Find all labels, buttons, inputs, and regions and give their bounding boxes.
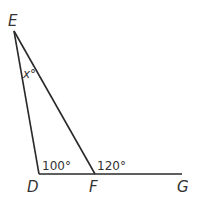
point-label-F: F [89,178,98,196]
angle-label-E: x° [22,67,36,81]
angle-label-F-exterior: 120° [97,159,126,173]
point-label-E: E [8,12,18,30]
angle-label-D: 100° [42,159,71,173]
point-label-D: D [27,178,39,196]
point-label-G: G [177,178,189,196]
triangle-diagram: E D F G x° 100° 120° [0,0,198,199]
